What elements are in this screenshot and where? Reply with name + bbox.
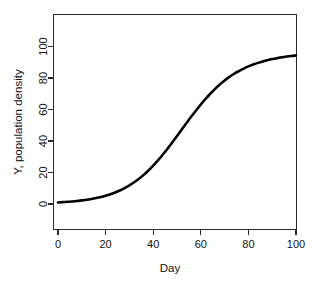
x-tick-label-40: 40 bbox=[147, 238, 159, 250]
y-tick-label-100: 100 bbox=[37, 37, 49, 55]
y-axis-tick-labels: 0 20 40 60 80 100 bbox=[37, 37, 49, 207]
y-axis-title: Y, population density bbox=[12, 69, 24, 175]
y-tick-label-40: 40 bbox=[37, 135, 49, 147]
y-tick-label-80: 80 bbox=[37, 72, 49, 84]
x-tick-label-60: 60 bbox=[195, 238, 207, 250]
y-tick-label-0: 0 bbox=[37, 201, 49, 207]
x-tick-label-100: 100 bbox=[287, 238, 305, 250]
logistic-growth-curve bbox=[58, 55, 296, 202]
x-axis-tick-labels: 0 20 40 60 80 100 bbox=[55, 238, 305, 250]
y-axis-ticks bbox=[48, 47, 54, 205]
x-axis-ticks bbox=[58, 230, 296, 236]
chart-canvas: 0 20 40 60 80 100 0 20 40 60 80 100 Day bbox=[0, 0, 315, 285]
x-tick-label-0: 0 bbox=[55, 238, 61, 250]
x-axis-title: Day bbox=[160, 262, 181, 274]
figure-container: 0 20 40 60 80 100 0 20 40 60 80 100 Day bbox=[0, 0, 315, 285]
y-tick-label-20: 20 bbox=[37, 166, 49, 178]
y-tick-label-60: 60 bbox=[37, 103, 49, 115]
x-tick-label-80: 80 bbox=[242, 238, 254, 250]
x-tick-label-20: 20 bbox=[99, 238, 111, 250]
plot-frame-box bbox=[54, 15, 297, 230]
